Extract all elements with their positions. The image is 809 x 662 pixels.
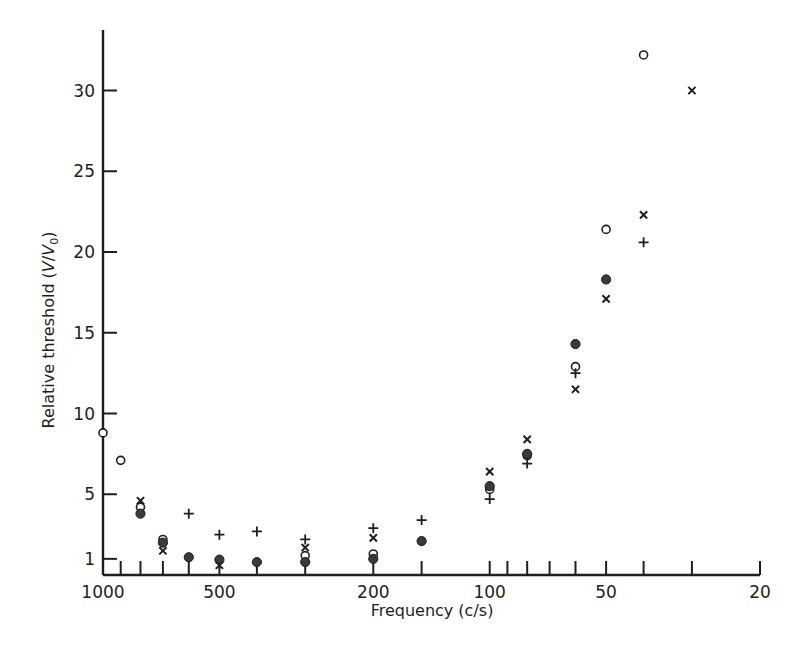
filled-circle-marker: [523, 449, 532, 458]
filled-circle-marker: [369, 554, 378, 563]
cross-marker: [370, 534, 377, 541]
y-tick-label: 1: [84, 549, 95, 569]
filled-circle-marker: [136, 509, 145, 518]
y-tick-label: 20: [73, 242, 95, 262]
filled-circle-marker: [602, 275, 611, 284]
plus-marker: [639, 237, 649, 247]
cross-marker: [572, 386, 579, 393]
filled-circle-marker: [485, 482, 494, 491]
cross-marker: [688, 87, 695, 94]
open-circle-marker: [602, 225, 610, 233]
x-tick-label: 200: [357, 582, 389, 602]
open-circle-marker: [640, 51, 648, 59]
cross-marker: [159, 547, 166, 554]
y-axis-title-subscript: 0: [48, 238, 61, 245]
y-tick-label: 15: [73, 323, 95, 343]
filled-circle-marker: [571, 339, 580, 348]
x-tick-label: 1000: [81, 582, 124, 602]
plus-marker: [522, 459, 532, 469]
data-points: [99, 51, 696, 569]
cross-marker: [486, 468, 493, 475]
x-tick-label: 20: [749, 582, 771, 602]
y-tick-label: 30: [73, 81, 95, 101]
plus-marker: [417, 515, 427, 525]
plus-marker: [300, 534, 310, 544]
x-tick-label: 500: [203, 582, 235, 602]
open-circle-marker: [117, 456, 125, 464]
scatter-chart: 15101520253010005002001005020 Frequency …: [0, 0, 809, 662]
filled-circle-marker: [301, 557, 310, 566]
y-axis-title-close: ): [39, 232, 58, 238]
y-axis-title: Relative threshold (V/V0): [39, 232, 61, 429]
plus-marker: [184, 509, 194, 519]
y-tick-label: 25: [73, 161, 95, 181]
filled-circle-marker: [184, 553, 193, 562]
y-tick-label: 10: [73, 404, 95, 424]
plus-marker: [214, 530, 224, 540]
plus-marker: [368, 523, 378, 533]
cross-marker: [603, 295, 610, 302]
y-tick-label: 5: [84, 484, 95, 504]
plus-marker: [252, 526, 262, 536]
cross-marker: [640, 211, 647, 218]
filled-circle-marker: [252, 557, 261, 566]
cross-marker: [524, 436, 531, 443]
x-tick-label: 50: [595, 582, 617, 602]
filled-circle-marker: [417, 536, 426, 545]
x-axis-title: Frequency (c/s): [371, 601, 494, 620]
open-circle-marker: [99, 429, 107, 437]
y-axis-title-main: Relative threshold (: [39, 272, 58, 428]
x-tick-label: 100: [473, 582, 505, 602]
plus-marker: [485, 494, 495, 504]
cross-marker: [302, 544, 309, 551]
filled-circle-marker: [158, 538, 167, 547]
